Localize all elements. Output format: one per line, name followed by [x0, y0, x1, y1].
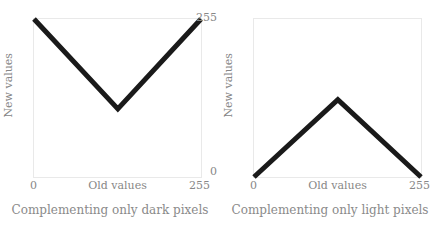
data-polyline [254, 100, 421, 177]
x-axis-title: Old values [253, 180, 422, 192]
panel-caption-light-pixels: Complementing only light pixels [220, 203, 440, 217]
y-axis-title: New values [2, 53, 16, 118]
figure-two-panel-intensity-transforms: 255 0 0 255 New values Old values Comple… [0, 0, 440, 231]
plot-area-light-pixels [253, 18, 422, 178]
ytick-min-label: 0 [210, 166, 217, 177]
x-axis-title: Old values [33, 180, 202, 192]
panel-light-pixels: 255 0 0 255 New values Old values Comple… [220, 0, 440, 231]
plot-line-light-pixels [254, 19, 421, 177]
ytick-max-label: 255 [196, 12, 217, 23]
panel-caption-dark-pixels: Complementing only dark pixels [0, 203, 220, 217]
panel-dark-pixels: 255 0 0 255 New values Old values Comple… [0, 0, 220, 231]
y-axis-title: New values [222, 53, 236, 118]
data-polyline [34, 19, 201, 109]
plot-line-dark-pixels [34, 19, 201, 177]
plot-area-dark-pixels [33, 18, 202, 178]
